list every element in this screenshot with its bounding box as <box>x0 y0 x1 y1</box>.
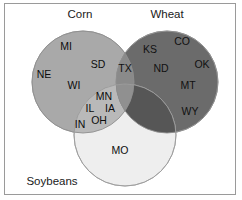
set-title-soybeans: Soybeans <box>26 175 77 187</box>
member-nd: ND <box>153 62 169 74</box>
set-title-wheat: Wheat <box>150 8 184 20</box>
member-wi: WI <box>68 79 81 91</box>
member-co: CO <box>174 35 190 47</box>
member-mt: MT <box>180 79 196 91</box>
member-il: IL <box>86 102 95 114</box>
member-mn: MN <box>96 90 112 102</box>
venn-canvas: Corn Wheat Soybeans MI SD NE WI TX KS CO… <box>0 0 242 200</box>
member-ia: IA <box>105 102 115 114</box>
member-mi: MI <box>60 40 72 52</box>
member-tx: TX <box>118 62 131 74</box>
member-ne: NE <box>37 68 52 80</box>
member-ok: OK <box>194 58 209 70</box>
member-sd: SD <box>91 58 106 70</box>
member-in: IN <box>75 118 86 130</box>
member-oh: OH <box>91 114 107 126</box>
member-ks: KS <box>143 43 157 55</box>
set-title-corn: Corn <box>68 8 93 20</box>
member-wy: WY <box>182 105 199 117</box>
member-mo: MO <box>112 144 129 156</box>
venn-diagram-figure: Corn Wheat Soybeans MI SD NE WI TX KS CO… <box>0 0 242 200</box>
